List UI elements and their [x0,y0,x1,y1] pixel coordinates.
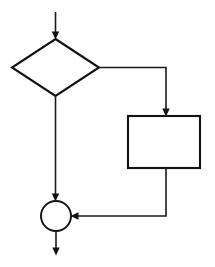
decision-branch-right-line [99,68,166,114]
process-node-shape [128,116,200,168]
flowchart-canvas [0,0,215,267]
process-node [128,116,200,168]
merge-node [41,201,71,231]
process-return-edge-line [74,168,166,216]
exit-arrowhead [52,248,59,256]
decision-branch-down [52,96,59,202]
process-return-edge [71,168,167,220]
exit-arrow [52,231,59,256]
merge-node-shape [41,201,71,231]
decision-node-shape [12,39,99,96]
decision-branch-right [99,68,170,117]
decision-node [12,39,99,96]
flowchart-diagram [0,0,215,267]
entry-arrow [52,12,59,40]
